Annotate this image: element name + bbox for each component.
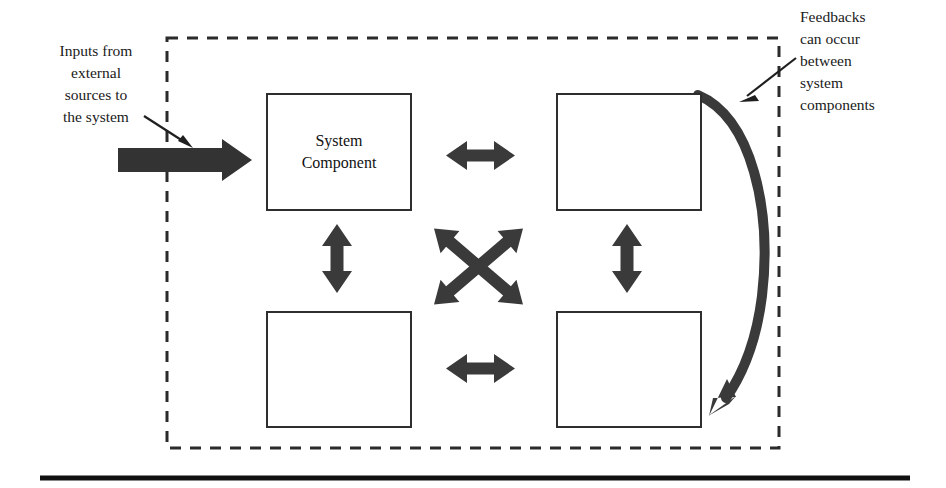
diagonal-arrow-nw-se xyxy=(425,217,533,315)
feedback-curved-arrow xyxy=(698,95,764,416)
diagonal-arrow-ne-sw xyxy=(425,217,533,315)
diagram-canvas: System Component Inputs from external so… xyxy=(0,0,946,488)
component-box-top-right[interactable] xyxy=(556,93,702,211)
bottom-horizontal-arrow xyxy=(446,354,515,383)
component-box-top-left[interactable]: System Component xyxy=(266,93,412,211)
input-flow-arrow xyxy=(118,139,252,181)
right-vertical-arrow xyxy=(612,224,642,293)
feedback-pointer-arrow xyxy=(739,58,796,102)
component-box-bottom-left[interactable] xyxy=(266,311,412,428)
left-vertical-arrow xyxy=(322,224,352,293)
component-box-bottom-right[interactable] xyxy=(556,311,702,428)
top-horizontal-arrow xyxy=(446,141,515,170)
component-box-top-left-label: System Component xyxy=(302,130,377,174)
input-annotation-text: Inputs from external sources to the syst… xyxy=(26,40,166,128)
feedback-annotation-text: Feedbacks can occur between system compo… xyxy=(800,6,942,116)
